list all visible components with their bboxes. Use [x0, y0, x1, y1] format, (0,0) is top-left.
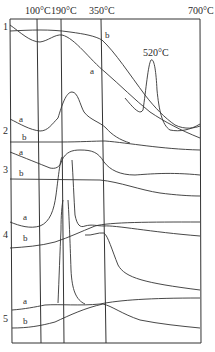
tick-label-190c: 190°C: [51, 5, 77, 16]
sample-label-3: 3: [3, 164, 8, 175]
curve-4-sharp-peak: [58, 200, 63, 303]
curve-2a: [10, 92, 130, 143]
tick-label-700c: 700°C: [188, 5, 214, 16]
curve-label-2b: b: [22, 132, 27, 142]
sample-label-4: 4: [3, 229, 8, 240]
curve-4a: [10, 157, 62, 227]
curve-label-5a: a: [23, 296, 27, 306]
curve-label-5b: b: [23, 316, 28, 326]
tick-label-350c: 350°C: [89, 5, 115, 16]
curve-4-shoulder: [85, 233, 200, 290]
sample-label-5: 5: [3, 313, 8, 324]
sample-label-1: 1: [3, 21, 8, 32]
curve-label-4b: b: [23, 233, 28, 243]
sample-label-2: 2: [3, 125, 8, 136]
curve-1-peak520: [125, 60, 200, 131]
curve-label-1a: a: [90, 66, 94, 76]
curve-4-sharp-peak2: [68, 200, 85, 304]
gridline-100c: [37, 19, 41, 343]
curve-label-2a: a: [19, 114, 23, 124]
gridline-190c: [61, 19, 64, 343]
curve-label-3b: b: [19, 168, 24, 178]
curve-4a-spike: [72, 160, 200, 236]
tick-label-100c: 100°C: [25, 5, 51, 16]
dta-chart: 100°C 190°C 350°C 700°C 520°C 1 2 3 4 5 …: [0, 0, 215, 352]
curve-label-4a: a: [23, 212, 27, 222]
curve-label-1b: b: [105, 30, 110, 40]
curve-3b: [10, 179, 200, 196]
peak-annotation-520c: 520°C: [143, 47, 169, 58]
curve-label-3a: a: [19, 147, 23, 157]
